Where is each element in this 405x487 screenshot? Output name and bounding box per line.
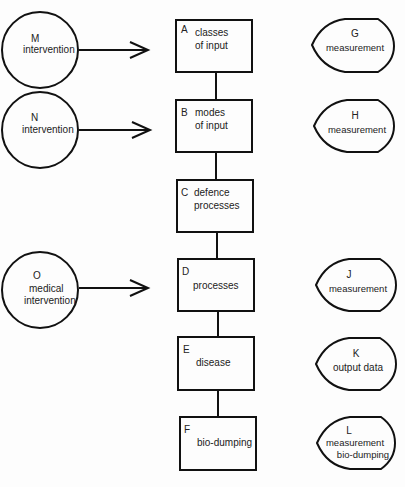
intervention-m-text: intervention (23, 44, 75, 56)
process-b-text-2: of input (195, 120, 228, 132)
process-d-text: processes (193, 280, 239, 292)
process-d-letter: D (182, 266, 189, 278)
process-f-text: bio-dumping (197, 437, 252, 449)
process-a-text-2: of input (195, 40, 228, 52)
output-l-text-1: measurement (318, 437, 392, 449)
process-f-letter: F (184, 424, 190, 436)
output-k-text: output data (321, 362, 395, 374)
process-c-text-2: processes (194, 200, 240, 212)
intervention-n-text: intervention (22, 124, 74, 136)
process-a-text-1: classes (195, 27, 228, 39)
process-b-text-1: modes (195, 107, 225, 119)
output-g-text: measurement (318, 42, 392, 54)
arrow-n-to-b (79, 122, 150, 138)
output-l-text-2: bio-dumping (326, 449, 400, 461)
output-h-letter: H (330, 110, 380, 122)
arrow-o-to-d (79, 280, 148, 296)
diagram-canvas (0, 0, 405, 487)
intervention-o-text-2: intervention (24, 295, 76, 307)
output-h-text: measurement (320, 124, 394, 136)
intervention-o-letter: O (33, 270, 41, 282)
output-k-letter: K (331, 348, 381, 360)
arrow-m-to-a (79, 42, 148, 58)
intervention-o-text-1: medical (29, 283, 63, 295)
process-c-letter: C (181, 187, 188, 199)
output-g-letter: G (330, 28, 380, 40)
output-j-letter: J (324, 269, 374, 281)
process-e-text: disease (196, 357, 230, 369)
process-c-text-1: defence (194, 187, 230, 199)
intervention-n-letter: N (31, 112, 38, 124)
output-l-letter: L (324, 425, 374, 437)
process-e-letter: E (183, 344, 190, 356)
process-b-letter: B (181, 107, 188, 119)
output-j-text: measurement (321, 283, 395, 295)
process-a-letter: A (181, 24, 188, 36)
